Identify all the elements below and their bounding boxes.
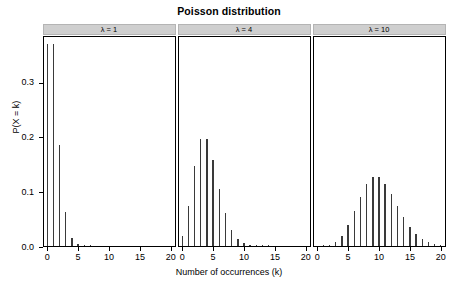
x-tick-mark [306,247,307,251]
x-tick-label: 15 [400,253,420,262]
x-tick-label: 5 [338,253,358,262]
x-tick-label: 0 [172,253,192,262]
bar [225,213,226,246]
bar [372,177,373,246]
y-tick-label: 0.0 [8,243,34,252]
bar [243,243,244,246]
bar [188,206,189,246]
x-tick-mark [109,247,110,251]
x-tick-label: 15 [265,253,285,262]
x-tick-label: 20 [431,253,451,262]
panel-strip-label-3: λ = 10 [313,24,446,35]
bar [384,184,385,246]
x-tick-mark [317,247,318,251]
x-tick-mark [410,247,411,251]
x-tick-label: 10 [99,253,119,262]
x-tick-label: 10 [234,253,254,262]
bar [71,238,72,246]
bar [428,242,429,246]
bar [366,184,367,246]
x-tick-label: 0 [307,253,327,262]
bar [53,44,54,246]
bar [434,244,435,246]
bar [200,139,201,246]
bar [397,206,398,246]
panel-strip-label-2: λ = 4 [178,24,311,35]
bar [249,245,250,246]
x-tick-mark [275,247,276,251]
bar [323,245,324,246]
bar [237,239,238,246]
bar [182,236,183,246]
bar [194,166,195,246]
x-tick-mark [47,247,48,251]
bar [335,242,336,246]
x-axis-label: Number of occurrences (k) [0,267,458,277]
x-tick-label: 5 [203,253,223,262]
bar [360,197,361,246]
x-tick-mark [140,247,141,251]
bar [391,194,392,246]
bar [341,236,342,246]
bar [268,245,269,246]
bar [440,245,441,246]
bar [262,245,263,246]
y-tick-label: 0.2 [8,133,34,142]
bar [378,177,379,246]
y-tick-label: 0.1 [8,188,34,197]
x-tick-mark [441,247,442,251]
y-tick-label: 0.3 [8,78,34,87]
x-tick-mark [171,247,172,251]
bar [256,245,257,246]
chart-root: Poisson distribution P(X = k) 0.00.10.20… [0,0,458,287]
bar [422,239,423,246]
x-tick-mark [182,247,183,251]
bar [354,211,355,246]
bar [219,189,220,246]
y-tick-mark [39,247,43,248]
x-tick-label: 15 [130,253,150,262]
bar [206,139,207,246]
bar [77,244,78,246]
chart-title: Poisson distribution [0,5,458,17]
bar [329,245,330,246]
x-tick-mark [379,247,380,251]
x-tick-label: 0 [37,253,57,262]
bar [403,217,404,246]
panel-1 [43,36,176,247]
bar [231,230,232,246]
panel-3 [313,36,446,247]
bar [65,212,66,246]
bar [212,160,213,246]
bar [47,44,48,246]
bar [347,225,348,246]
bar [84,245,85,246]
bar [415,234,416,246]
x-tick-label: 5 [68,253,88,262]
x-tick-mark [244,247,245,251]
x-tick-mark [348,247,349,251]
x-tick-mark [213,247,214,251]
bar [90,245,91,246]
bar [409,227,410,246]
panel-2 [178,36,311,247]
bar [59,145,60,246]
x-tick-label: 10 [369,253,389,262]
x-tick-mark [78,247,79,251]
panel-strip-label-1: λ = 1 [43,24,176,35]
